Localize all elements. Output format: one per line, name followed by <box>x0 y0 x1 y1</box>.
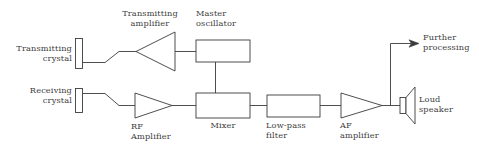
label-receiving-crystal: Receiving crystal <box>4 86 72 105</box>
label-af-amplifier: AF amplifier <box>340 121 402 140</box>
rf-amplifier-symbol <box>135 93 172 118</box>
low-pass-filter-box <box>267 95 320 117</box>
label-transmitting-crystal: Transmitting crystal <box>4 44 72 63</box>
wire-receiving-crystal-to-rf-amplifier <box>83 94 136 106</box>
label-further-processing: Further processing <box>423 33 479 52</box>
label-master-oscillator: Master oscillator <box>196 9 262 28</box>
master-oscillator-box <box>196 40 250 62</box>
mixer-box <box>196 93 250 118</box>
receiving-crystal-symbol <box>76 89 83 113</box>
af-amplifier-symbol <box>341 93 382 118</box>
loud-speaker-cone-icon <box>406 87 415 124</box>
transmitting-amplifier-symbol <box>136 32 175 71</box>
label-mixer: Mixer <box>196 121 250 131</box>
block-diagram: Transmitting crystal Transmitting amplif… <box>0 0 479 150</box>
label-low-pass-filter: Low-pass filter <box>266 121 326 140</box>
wire-transmitting-crystal-to-amplifier <box>83 52 137 63</box>
label-rf-amplifier: RF Amplifier <box>131 122 193 141</box>
transmitting-crystal-symbol <box>76 39 83 69</box>
loud-speaker-driver <box>400 98 406 114</box>
label-loud-speaker: Loud speaker <box>419 95 475 114</box>
label-transmitting-amplifier: Transmitting amplifier <box>112 9 188 28</box>
